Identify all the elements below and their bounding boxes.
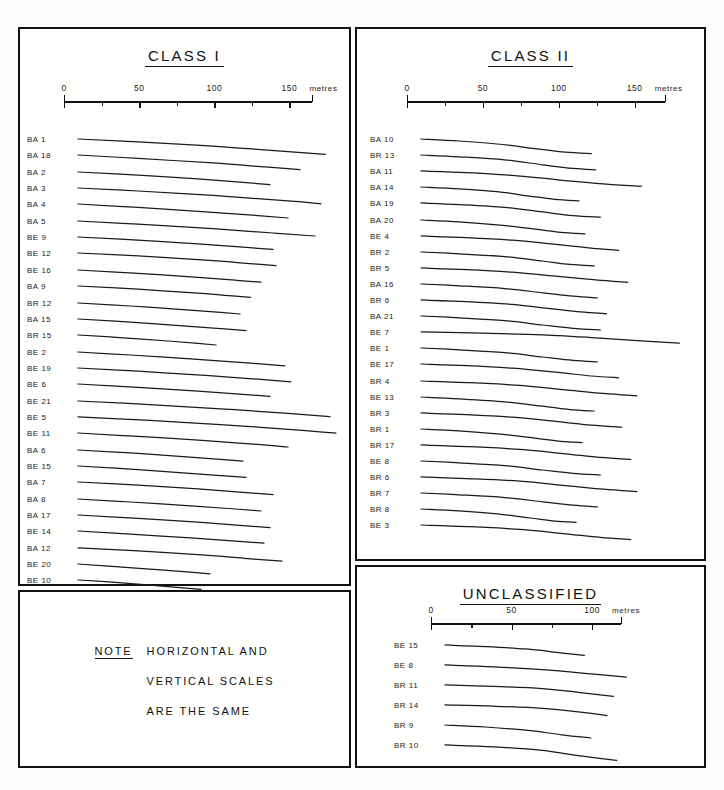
axis-unit-label: metres (655, 84, 683, 93)
profile-label: BA 12 (27, 544, 73, 553)
profile-label: BR 15 (27, 331, 73, 340)
profile-label: BE 7 (370, 328, 416, 337)
axis-tick-label: 150 (282, 83, 298, 93)
axis-tick-major (483, 101, 484, 108)
profile-label: BR 7 (370, 489, 416, 498)
panel-note: NOTEHORIZONTAL AND VERTICAL SCALES ARE T… (18, 590, 351, 768)
panel-class-2: CLASS II 050100150metres BA 10BR 13BA 11… (355, 27, 706, 561)
axis-tick-label: 50 (506, 605, 516, 615)
profile-label: BE 3 (370, 521, 416, 530)
profile-label: BA 19 (370, 199, 416, 208)
axis-tick-label: 50 (134, 83, 144, 93)
profile-label: BE 1 (370, 344, 416, 353)
profile-label: BR 8 (370, 505, 416, 514)
axis-unit-label: metres (612, 606, 640, 615)
axis-tick-major (559, 101, 560, 108)
axis-tick-minor (102, 101, 103, 106)
profile-label: BE 15 (394, 641, 440, 650)
note-line-2: VERTICAL SCALES (94, 666, 274, 696)
scale-bar-class-1: 050100150metres (64, 87, 312, 109)
axis-tick-label: 0 (428, 605, 433, 615)
panel-unclassified: UNCLASSIFIED 050100metres BE 15BE 8BR 11… (355, 565, 706, 768)
profile-label: BR 17 (370, 441, 416, 450)
axis-tick-minor (471, 623, 472, 628)
profile-label: BE 19 (27, 364, 73, 373)
scale-bar-class-2: 050100150metres (407, 87, 665, 109)
profile-label: BA 16 (370, 280, 416, 289)
axis-tick-minor (177, 101, 178, 106)
axis-tick-label: 150 (627, 83, 643, 93)
profile-curve (78, 562, 216, 580)
profile-label: BE 13 (370, 393, 416, 402)
profile-curve (445, 663, 632, 683)
axis-tick-minor (445, 101, 446, 106)
axis-tick-major (407, 101, 408, 108)
figure-sheet: CLASS I 050100150metres BA 1BA 18BA 2BA … (0, 0, 724, 790)
profile-label: BR 2 (370, 248, 416, 257)
profile-label: BE 17 (370, 360, 416, 369)
profile-curve (445, 723, 597, 744)
profile-label: BE 8 (394, 661, 440, 670)
axis-endcap (64, 95, 65, 102)
profile-label: BR 13 (370, 151, 416, 160)
profile-label: BA 14 (370, 183, 416, 192)
axis-tick-major (512, 623, 513, 630)
axis-endcap (665, 95, 666, 102)
axis-tick-label: 0 (404, 83, 409, 93)
profile-label: BA 10 (370, 135, 416, 144)
profile-label: BE 12 (27, 249, 73, 258)
profile-curve (421, 523, 637, 546)
profile-label: BA 1 (27, 135, 73, 144)
profile-label: BA 5 (27, 217, 73, 226)
profile-label: BA 8 (27, 495, 73, 504)
profile-label: BE 14 (27, 527, 73, 536)
profile-label: BA 7 (27, 478, 73, 487)
profile-label: BA 15 (27, 315, 73, 324)
axis-tick-major (592, 623, 593, 630)
profile-label: BA 21 (370, 312, 416, 321)
profile-label: BE 21 (27, 397, 73, 406)
note-keyword: NOTE (94, 645, 132, 659)
profile-label: BA 3 (27, 184, 73, 193)
axis-endcap (312, 95, 313, 102)
profile-label: BR 5 (370, 264, 416, 273)
axis-unit-label: metres (309, 84, 337, 93)
panel-class-1: CLASS I 050100150metres BA 1BA 18BA 2BA … (18, 27, 351, 586)
axis-tick-label: 0 (61, 83, 66, 93)
profile-label: BA 9 (27, 282, 73, 291)
axis-endcap (407, 95, 408, 102)
note-line-1: NOTEHORIZONTAL AND (94, 636, 274, 666)
profile-label: BR 4 (370, 377, 416, 386)
profile-label: BE 8 (370, 457, 416, 466)
profile-label: BR 9 (394, 721, 440, 730)
panel-class-2-title: CLASS II (357, 47, 704, 67)
profile-label: BE 6 (27, 380, 73, 389)
axis-tick-label: 50 (478, 83, 488, 93)
panel-unclassified-title: UNCLASSIFIED (357, 585, 704, 605)
profile-label: BE 11 (27, 429, 73, 438)
note-text-1: HORIZONTAL AND (147, 645, 269, 657)
profile-label: BR 11 (394, 681, 440, 690)
profile-label: BR 12 (27, 299, 73, 308)
axis-tick-label: 100 (206, 83, 222, 93)
profile-curve (445, 703, 613, 722)
profile-label: BA 17 (27, 511, 73, 520)
profile-label: BA 2 (27, 168, 73, 177)
axis-tick-major (64, 101, 65, 108)
axis-endcap (621, 617, 622, 624)
profile-label: BR 6 (370, 473, 416, 482)
profile-curve (78, 333, 222, 351)
axis-endcap (431, 617, 432, 624)
scale-bar-unclassified: 050100metres (431, 609, 621, 631)
axis-tick-major (431, 623, 432, 630)
axis-tick-major (289, 101, 290, 108)
profile-label: BE 16 (27, 266, 73, 275)
profile-label: BE 2 (27, 348, 73, 357)
profile-label: BE 20 (27, 560, 73, 569)
panel-class-1-title: CLASS I (20, 47, 349, 67)
profile-label: BE 4 (370, 232, 416, 241)
profile-label: BA 11 (370, 167, 416, 176)
profile-curve (445, 683, 619, 702)
axis-tick-minor (252, 101, 253, 106)
profile-label: BA 4 (27, 200, 73, 209)
